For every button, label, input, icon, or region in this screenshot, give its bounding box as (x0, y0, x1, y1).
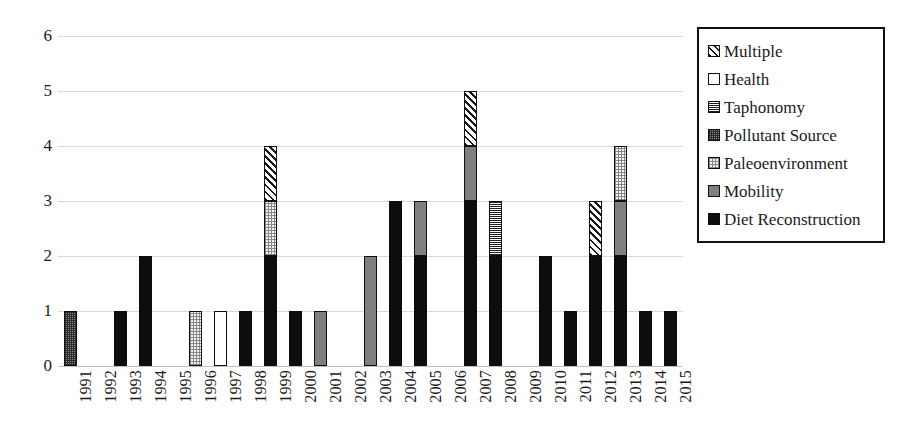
bar-column (189, 36, 202, 366)
bar-segment (289, 311, 302, 366)
legend-item[interactable]: Health (708, 65, 876, 93)
x-axis-tick: 1997 (228, 370, 244, 448)
bar-segment (389, 201, 402, 366)
bar-column (439, 36, 452, 366)
x-axis-tick: 1996 (203, 370, 219, 448)
bar-segment (464, 91, 477, 146)
bar-segment (239, 311, 252, 366)
bar-segment (264, 201, 277, 256)
x-axis-tick: 2001 (328, 370, 344, 448)
y-axis-tick: 2 (6, 247, 52, 264)
bar-segment (64, 311, 77, 366)
legend-label: Mobility (724, 183, 784, 200)
legend-item[interactable]: Pollutant Source (708, 121, 876, 149)
bar-segment (489, 201, 502, 256)
x-axis-tick: 2008 (503, 370, 519, 448)
legend-swatch-icon (708, 73, 720, 85)
bar-column (514, 36, 527, 366)
bar-column (239, 36, 252, 366)
x-axis-tick: 2007 (478, 370, 494, 448)
legend-swatch-icon (708, 157, 720, 169)
x-axis-tick: 2011 (578, 370, 594, 448)
x-axis-tick: 1995 (178, 370, 194, 448)
y-axis-tick: 6 (6, 27, 52, 44)
bar-segment (489, 256, 502, 366)
x-axis-tick: 2013 (628, 370, 644, 448)
x-axis-tick: 2012 (603, 370, 619, 448)
stacked-bar-chart: 6543210 19911992199319941995199619971998… (0, 0, 901, 448)
x-axis-tick: 2009 (528, 370, 544, 448)
x-axis-tick: 2010 (553, 370, 569, 448)
legend-swatch-icon (708, 213, 720, 225)
bar-column (564, 36, 577, 366)
x-axis-tick: 1994 (153, 370, 169, 448)
bar-segment (664, 311, 677, 366)
legend-label: Pollutant Source (724, 127, 837, 144)
x-axis-tick: 2000 (303, 370, 319, 448)
bar-segment (264, 146, 277, 201)
x-axis-tick: 2002 (353, 370, 369, 448)
plot-area (58, 36, 683, 366)
bar-segment (114, 311, 127, 366)
bar-column (539, 36, 552, 366)
legend-swatch-icon (708, 101, 720, 113)
bar-column (289, 36, 302, 366)
bar-column (489, 36, 502, 366)
y-axis: 6543210 (0, 36, 52, 366)
legend-item[interactable]: Multiple (708, 37, 876, 65)
bar-column (264, 36, 277, 366)
legend-label: Diet Reconstruction (724, 211, 860, 228)
bar-segment (564, 311, 577, 366)
bar-segment (414, 256, 427, 366)
bar-column (664, 36, 677, 366)
bar-segment (639, 311, 652, 366)
legend-swatch-icon (708, 185, 720, 197)
bar-column (64, 36, 77, 366)
y-axis-tick: 3 (6, 192, 52, 209)
bar-segment (139, 256, 152, 366)
bar-segment (364, 256, 377, 366)
bar-column (214, 36, 227, 366)
bar-segment (414, 201, 427, 256)
legend-item[interactable]: Taphonomy (708, 93, 876, 121)
bar-segment (314, 311, 327, 366)
legend-swatch-icon (708, 45, 720, 57)
bar-segment (614, 201, 627, 256)
bar-segment (614, 256, 627, 366)
x-axis-tick: 2003 (378, 370, 394, 448)
bar-segment (214, 311, 227, 366)
bar-column (89, 36, 102, 366)
bar-segment (189, 311, 202, 366)
x-axis-tick: 2005 (428, 370, 444, 448)
y-axis-tick: 5 (6, 82, 52, 99)
x-axis-tick: 2006 (453, 370, 469, 448)
bar-column (314, 36, 327, 366)
chart-legend: MultipleHealthTaphonomyPollutant SourceP… (697, 27, 885, 243)
legend-label: Taphonomy (724, 99, 805, 116)
bar-segment (539, 256, 552, 366)
legend-item[interactable]: Paleoenvironment (708, 149, 876, 177)
y-axis-tick: 0 (6, 357, 52, 374)
bar-column (339, 36, 352, 366)
x-axis-tick: 1993 (128, 370, 144, 448)
legend-label: Paleoenvironment (724, 155, 848, 172)
x-axis-tick: 2015 (678, 370, 694, 448)
bar-segment (614, 146, 627, 201)
legend-item[interactable]: Diet Reconstruction (708, 205, 876, 233)
legend-item[interactable]: Mobility (708, 177, 876, 205)
x-axis-labels: 1991199219931994199519961997199819992000… (58, 370, 683, 448)
bar-column (114, 36, 127, 366)
x-axis-tick: 1991 (78, 370, 94, 448)
bar-segment (589, 256, 602, 366)
y-axis-tick: 4 (6, 137, 52, 154)
legend-label: Multiple (724, 43, 783, 60)
x-axis-tick: 1998 (253, 370, 269, 448)
x-axis-tick: 1999 (278, 370, 294, 448)
bar-segment (264, 256, 277, 366)
bar-column (139, 36, 152, 366)
bar-segment (464, 146, 477, 201)
bar-column (414, 36, 427, 366)
bar-column (364, 36, 377, 366)
legend-swatch-icon (708, 129, 720, 141)
bar-segment (589, 201, 602, 256)
